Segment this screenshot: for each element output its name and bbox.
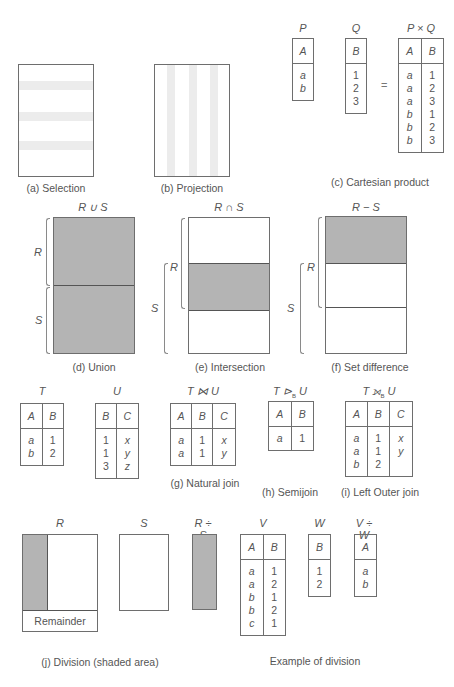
cell: 1 (429, 69, 435, 81)
semijoin-table: AB a1 (268, 401, 314, 451)
cell: y (125, 447, 130, 459)
remainder-divider (23, 610, 97, 611)
difference-title: R − S (325, 201, 407, 213)
projection-diagram (154, 64, 230, 177)
relation-w-table: B 12 (308, 534, 331, 597)
cell: 3 (429, 95, 435, 107)
relation-p-table: A ab (292, 38, 314, 101)
cell: 2 (317, 578, 323, 590)
cell: b (249, 591, 255, 603)
union-caption: (d) Union (53, 361, 135, 373)
s-label: S (35, 314, 42, 326)
cell: 1 (353, 69, 359, 81)
r-label: R (34, 246, 42, 258)
division-example-caption: Example of division (260, 655, 370, 667)
cell: 3 (429, 134, 435, 146)
cell: b (28, 447, 34, 459)
division-s-title: S (119, 517, 169, 529)
difference-caption: (f) Set difference (320, 361, 420, 373)
cell: 1 (103, 434, 109, 446)
column-header: A (399, 39, 422, 64)
remainder-label: Remainder (23, 615, 97, 627)
cartesian-caption: (c) Cartesian product (310, 176, 450, 188)
cell: 1 (271, 565, 277, 577)
s-brace (46, 287, 50, 354)
s-label: S (287, 302, 294, 314)
cell: 1 (271, 591, 277, 603)
relation-u-title: U (95, 385, 139, 397)
cell: a (249, 578, 255, 590)
left-outer-join-table: ABC aab112xy (345, 401, 413, 477)
projection-caption: (b) Projection (154, 182, 230, 194)
cell: 1 (271, 617, 277, 629)
relation-v-table: AB aabbc 12121 (240, 534, 286, 636)
cell: 1 (375, 432, 381, 444)
selected-row-stripe (19, 112, 93, 121)
cell: b (407, 134, 413, 146)
relation-w-title: W (308, 517, 331, 529)
column-header: B (96, 404, 117, 429)
cell: 3 (353, 95, 359, 107)
cell: b (407, 121, 413, 133)
r-s-divider (54, 285, 134, 286)
projected-column-stripe (167, 65, 175, 176)
intersection-shaded-area (189, 263, 269, 311)
cell: a (249, 565, 255, 577)
cell: c (249, 617, 254, 629)
natural-join-table: ABC aa11xy (170, 403, 236, 466)
cell: 1 (199, 434, 205, 446)
cell: 1 (317, 565, 323, 577)
division-s-diagram (119, 534, 169, 611)
cell: 1 (50, 434, 56, 446)
cell: a (300, 69, 306, 81)
relation-t-title: T (20, 385, 64, 397)
relation-u-table: BC 113xyz (95, 403, 139, 479)
selected-row-stripe (19, 81, 93, 90)
r-brace (318, 217, 322, 308)
division-caption: (j) Division (shaded area) (30, 656, 170, 668)
column-header: B (192, 404, 213, 429)
cell: 2 (271, 604, 277, 616)
cell: a (407, 95, 413, 107)
union-title: R ∪ S (52, 201, 134, 214)
s-brace (300, 263, 304, 354)
r-brace (181, 218, 185, 309)
intersection-caption: (e) Intersection (180, 361, 280, 373)
column-header: A (21, 404, 43, 429)
column-header: C (116, 404, 138, 429)
projected-column-stripe (189, 65, 197, 176)
relation-v-title: V (240, 517, 286, 529)
cell: b (249, 604, 255, 616)
column-header: A (269, 402, 292, 427)
cell: 2 (271, 578, 277, 590)
cell: a (178, 447, 184, 459)
cell: y (222, 447, 227, 459)
natural-join-caption: (g) Natural join (160, 477, 250, 489)
cell: a (178, 434, 184, 446)
equals-sign: = (381, 79, 387, 91)
cell: 2 (353, 82, 359, 94)
left-outer-join-caption: (i) Left Outer join (335, 486, 425, 498)
semijoin-caption: (h) Semijoin (255, 486, 325, 498)
relation-q-table: B 123 (345, 38, 367, 114)
division-result-diagram (192, 534, 217, 610)
r-label: R (170, 261, 178, 273)
s-label: S (151, 302, 158, 314)
column-header: A (241, 535, 264, 560)
cell: a (353, 432, 359, 444)
cell: a (353, 445, 359, 457)
difference-diagram (325, 216, 407, 354)
natural-join-title: T ⋈ U (170, 385, 236, 398)
column-header: A (346, 402, 368, 427)
selected-row-stripe (19, 141, 93, 150)
cell: y (398, 445, 403, 457)
relation-q-title: Q (345, 22, 367, 34)
cell: 2 (429, 121, 435, 133)
r-boundary (326, 307, 406, 308)
cell: x (125, 434, 130, 446)
column-header: B (291, 402, 314, 427)
cell: a (277, 432, 283, 444)
column-header: C (213, 404, 236, 429)
relation-t-table: AB ab12 (20, 403, 64, 466)
column-header: C (389, 402, 412, 427)
